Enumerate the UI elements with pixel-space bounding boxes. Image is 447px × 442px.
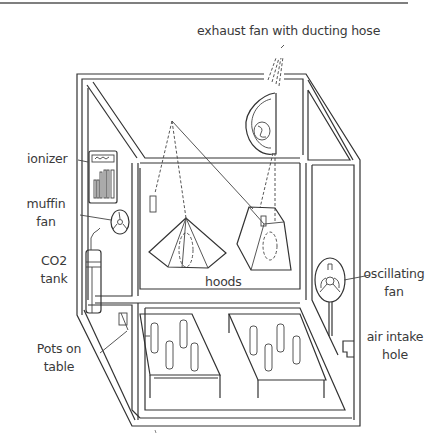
label-pots-line2: table: [30, 358, 88, 376]
label-hoods: hoods: [205, 273, 242, 291]
label-exhaust-fan: exhaust fan with ducting hose: [197, 22, 380, 40]
left-table: [140, 314, 220, 398]
pots-pointer: [100, 313, 128, 353]
cabinet-frame: [77, 74, 360, 426]
exhaust-fan-icon: [246, 45, 284, 154]
label-co2-tank: CO2 tank: [34, 252, 74, 288]
label-muffin-fan-line2: fan: [22, 213, 70, 231]
hoods-icon: [149, 121, 291, 270]
pot: [151, 320, 198, 371]
air-intake-hole-icon: [343, 341, 354, 357]
label-air-intake-line2: hole: [362, 346, 428, 364]
label-air-intake-hole: air intake hole: [362, 328, 428, 364]
pot: [250, 324, 300, 371]
ionizer-icon: [78, 151, 117, 203]
label-oscillating-fan-line1: oscillating: [360, 265, 428, 283]
muffin-fan-icon: [80, 210, 129, 234]
label-co2-tank-line2: tank: [34, 270, 74, 288]
label-ionizer: ionizer: [27, 150, 68, 168]
label-pots-on-table: Pots on table: [30, 340, 88, 376]
label-oscillating-fan-line2: fan: [360, 283, 428, 301]
right-table: [229, 314, 326, 398]
label-oscillating-fan: oscillating fan: [360, 265, 428, 301]
label-muffin-fan-line1: muffin: [22, 195, 70, 213]
label-air-intake-line1: air intake: [362, 328, 428, 346]
label-muffin-fan: muffin fan: [22, 195, 70, 231]
label-pots-line1: Pots on: [30, 340, 88, 358]
label-co2-tank-line1: CO2: [34, 252, 74, 270]
